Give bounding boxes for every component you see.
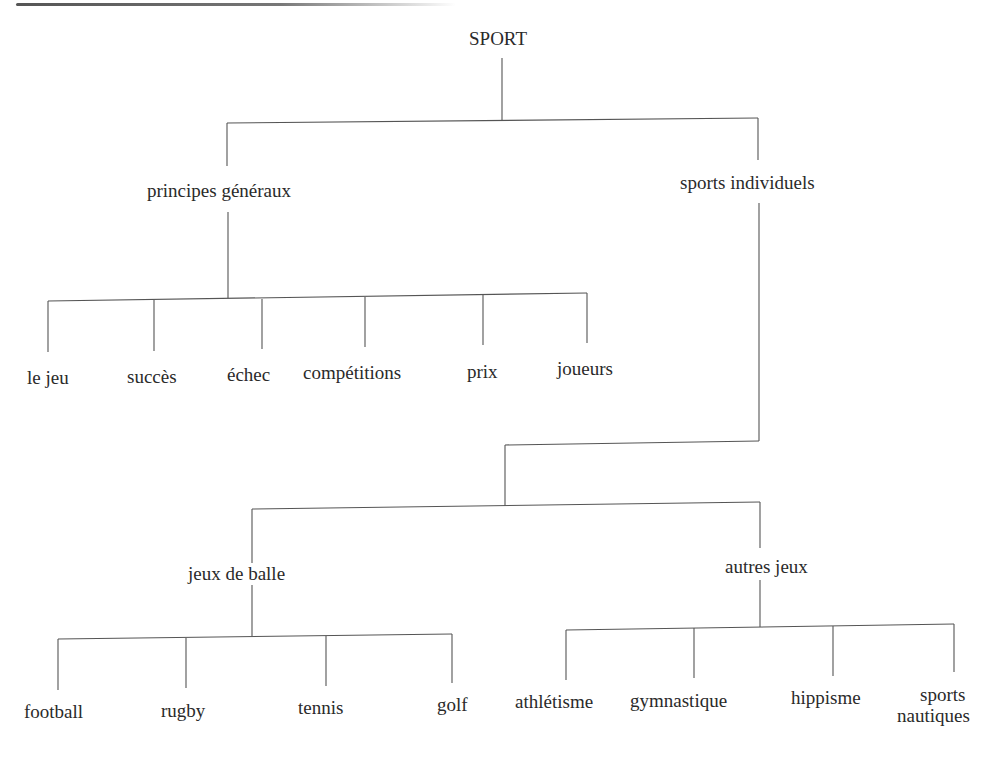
node-hippisme: hippisme: [791, 687, 861, 709]
tree-diagram: SPORT principes généraux sports individu…: [0, 0, 1006, 760]
node-gymnastique: gymnastique: [630, 690, 727, 712]
node-other-games: autres jeux: [725, 556, 808, 578]
node-general-principles: principes généraux: [147, 180, 291, 202]
node-sports-nautiques-line1: sports: [920, 684, 965, 706]
node-individual-sports: sports individuels: [680, 172, 815, 194]
node-echec: échec: [227, 364, 270, 386]
node-golf: golf: [437, 694, 468, 716]
node-athletisme: athlétisme: [515, 691, 593, 713]
node-ball-games: jeux de balle: [186, 563, 287, 585]
node-prix: prix: [467, 361, 498, 383]
node-football: football: [24, 701, 83, 723]
node-root: SPORT: [469, 28, 527, 50]
node-sports-nautiques-line2: nautiques: [897, 705, 970, 727]
node-tennis: tennis: [298, 697, 343, 719]
node-rugby: rugby: [161, 700, 205, 722]
node-le-jeu: le jeu: [27, 367, 69, 389]
node-competitions: compétitions: [303, 362, 401, 384]
node-succes: succès: [127, 366, 177, 388]
node-joueurs: joueurs: [557, 358, 613, 380]
